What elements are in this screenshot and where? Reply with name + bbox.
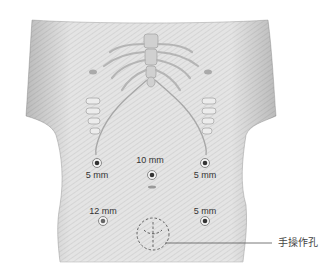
hand-port-label: 手操作孔 [278, 237, 318, 249]
port-label-umbilical: 10 mm [136, 155, 164, 165]
port-umbilical [148, 171, 157, 180]
port-label-left-lower: 5 mm [194, 206, 217, 216]
port-left-upper [201, 159, 210, 168]
port-right-upper [93, 159, 102, 168]
port-label-left-upper: 5 mm [194, 170, 217, 180]
port-label-right-lower: 12 mm [89, 206, 117, 216]
torso-illustration: 5 mm 10 mm 5 mm 12 mm 5 mm 手操作孔 [0, 0, 336, 275]
torso-drawing [0, 0, 336, 275]
port-right-lower [99, 217, 108, 226]
port-left-lower [201, 217, 210, 226]
port-label-right-upper: 5 mm [86, 170, 109, 180]
